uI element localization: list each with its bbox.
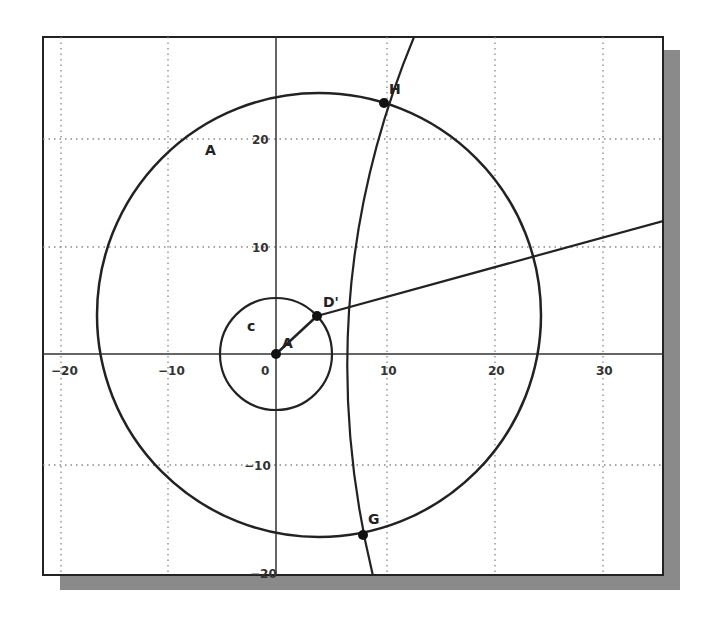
geometry-figure: A D' H G c A −20 −10 0 10 20 30 20 10 −1…: [0, 0, 714, 621]
point-A[interactable]: [271, 349, 281, 359]
y-tick-neg20: −20: [250, 567, 277, 581]
label-stray-A: A: [205, 142, 216, 158]
label-A: A: [282, 335, 293, 351]
label-Dprime: D': [323, 294, 339, 310]
x-tick-20: 20: [488, 364, 505, 378]
point-G[interactable]: [358, 530, 368, 540]
point-Dprime[interactable]: [312, 311, 322, 321]
x-tick-10: 10: [380, 364, 397, 378]
label-circle-c: c: [247, 318, 255, 334]
x-tick-30: 30: [596, 364, 613, 378]
point-H[interactable]: [379, 98, 389, 108]
x-tick-0: 0: [261, 364, 269, 378]
x-tick-neg20: −20: [51, 364, 78, 378]
y-tick-20: 20: [252, 133, 269, 147]
label-H: H: [389, 81, 401, 97]
label-G: G: [368, 511, 380, 527]
y-tick-10: 10: [252, 241, 269, 255]
x-tick-neg10: −10: [158, 364, 185, 378]
y-tick-neg10: −10: [244, 459, 271, 473]
